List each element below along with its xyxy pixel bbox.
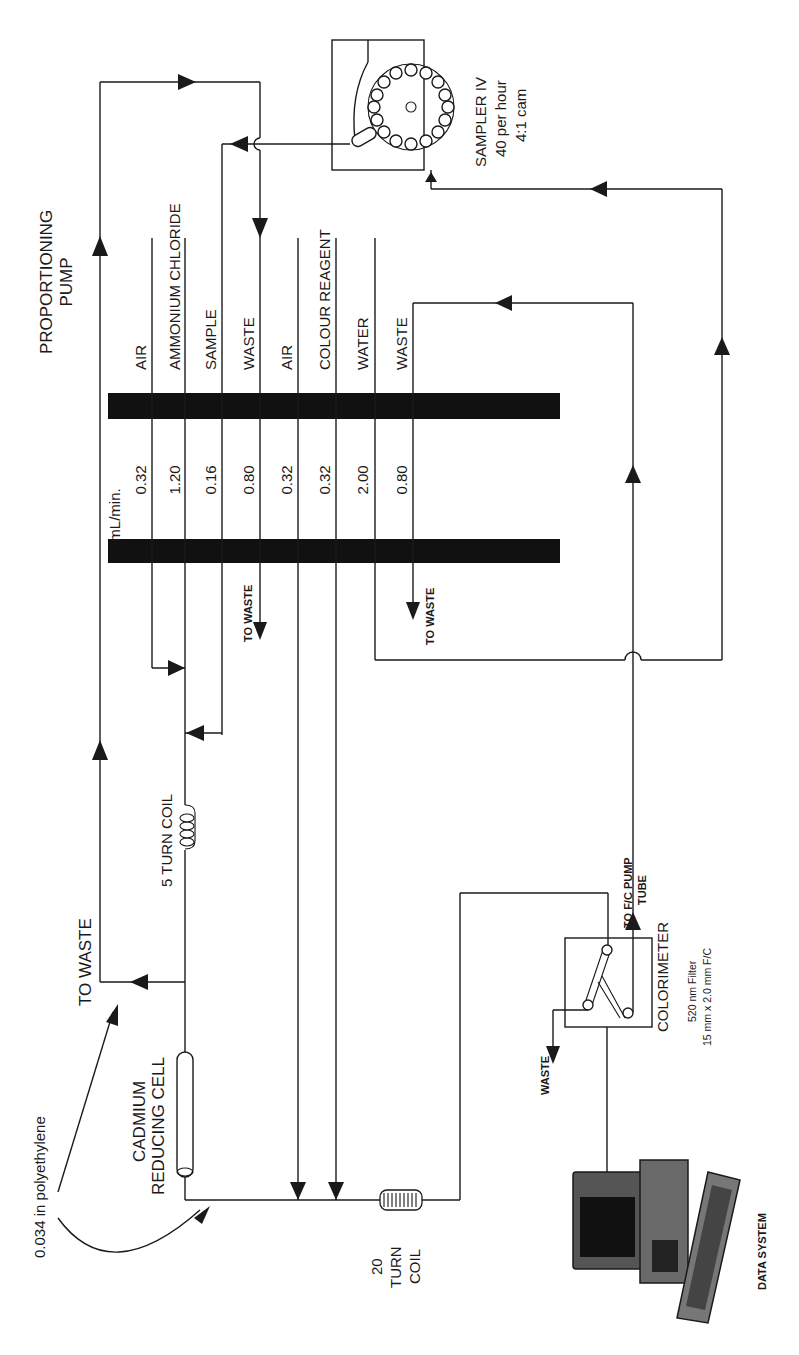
label-water: WATER: [354, 317, 371, 370]
arrow-left-icon: [495, 295, 512, 311]
arrow-up-icon: [625, 465, 641, 483]
flowcell-icon: [583, 945, 633, 1018]
twenty-turn-label-line2: TURN: [387, 1246, 404, 1288]
tubing-note: 0.034 in polyethylene: [31, 1116, 48, 1258]
rate-sample: 0.16: [202, 465, 219, 494]
flow-diagram: PROPORTIONING PUMP mL/min. 0.32 1.20 0.1…: [0, 0, 799, 1355]
colorimeter-flowcell: 15 mm x 2.0 mm F/C: [701, 948, 713, 1046]
five-turn-coil-icon: [177, 805, 195, 850]
arrow-icon: [194, 1206, 210, 1224]
pump-platen-top: [108, 393, 560, 419]
pump-title-line2: PUMP: [57, 257, 76, 306]
label-waste-2: WASTE: [393, 317, 410, 370]
rate-air-2: 0.32: [278, 465, 295, 494]
label-waste-1: WASTE: [240, 317, 257, 370]
data-system: DATA SYSTEM: [573, 1160, 768, 1323]
label-air-2: AIR: [278, 345, 295, 370]
arrow-down-icon: [328, 1182, 344, 1200]
five-turn-coil-label: 5 TURN COIL: [158, 794, 175, 887]
label-ammonium-chloride: AMMONIUM CHLORIDE: [166, 203, 183, 370]
rate-ammonium-chloride: 1.20: [166, 465, 183, 494]
to-waste-label-1: TO WASTE: [242, 585, 254, 642]
pump-title-line1: PROPORTIONING: [37, 210, 56, 354]
colorimeter-waste-label: WASTE: [539, 1056, 551, 1095]
sampler-rate: 40 per hour: [492, 80, 509, 157]
sampler-name: SAMPLER IV: [472, 77, 489, 167]
arrow-left-icon: [130, 974, 148, 990]
colorimeter-filter: 520 nm Filter: [686, 960, 698, 1022]
manifold: 5 TURN COIL TO WASTE CADMIUM REDUCING CE…: [31, 660, 608, 1288]
arrow-right-icon: [168, 660, 185, 676]
label-air-1: AIR: [132, 345, 149, 370]
twenty-turn-label-line3: COIL: [406, 1249, 423, 1284]
cadmium-label-line2: REDUCING CELL: [149, 1057, 168, 1195]
rate-waste-2: 0.80: [393, 465, 410, 494]
proportioning-pump: PROPORTIONING PUMP mL/min. 0.32 1.20 0.1…: [37, 203, 560, 1200]
cadmium-cell-icon: [177, 1052, 193, 1177]
arrow-icon: [106, 1004, 118, 1026]
sample-tray-icon: [368, 64, 454, 150]
arrow-down-icon: [290, 1182, 306, 1200]
to-fc-pump-line2: TUBE: [636, 875, 648, 905]
label-colour-reagent: COLOUR REAGENT: [316, 229, 333, 370]
arrow-left-icon: [230, 136, 248, 152]
arrow-left-icon: [590, 181, 607, 197]
colorimeter: WASTE COLORIMETER 520 nm Filter 15 mm x …: [539, 922, 713, 1173]
arrow-up-icon: [425, 172, 437, 182]
twenty-turn-coil-icon: [380, 1190, 422, 1210]
colorimeter-name: COLORIMETER: [654, 922, 671, 1032]
to-fc-pump-line1: TO F/C PUMP: [622, 857, 634, 928]
arrow-down-icon: [252, 218, 268, 238]
computer-icon: [573, 1160, 740, 1323]
data-system-label: DATA SYSTEM: [756, 1213, 768, 1290]
to-waste-label: TO WASTE: [76, 918, 95, 1006]
rate-colour-reagent: 0.32: [316, 465, 333, 494]
sampler-cam: 4:1 cam: [512, 89, 529, 142]
rate-air-1: 0.32: [132, 465, 149, 494]
to-waste-label-2: TO WASTE: [424, 588, 436, 645]
arrow-left-icon: [186, 725, 204, 741]
pump-platen-bottom: [108, 539, 560, 563]
rate-water: 2.00: [354, 465, 371, 494]
label-sample: SAMPLE: [202, 309, 219, 370]
arrow-down-icon: [406, 602, 420, 620]
twenty-turn-label-line1: 20: [368, 1258, 385, 1275]
arrow-up-icon: [92, 236, 108, 256]
arrow-down-icon: [253, 622, 267, 640]
cadmium-label-line1: CADMIUM: [130, 1081, 149, 1162]
rate-waste-1: 0.80: [240, 465, 257, 494]
arrow-right-icon: [178, 74, 196, 90]
arrow-up-icon: [714, 337, 730, 355]
pump-units: mL/min.: [106, 488, 123, 541]
arrow-up-icon: [92, 740, 108, 760]
sampler: SAMPLER IV 40 per hour 4:1 cam: [332, 40, 529, 170]
